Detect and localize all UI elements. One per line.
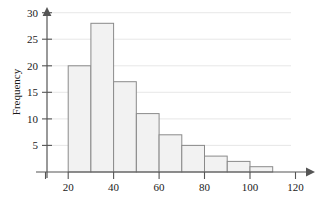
x-tick-label-80: 80 — [199, 181, 211, 193]
x-tick-label-100: 100 — [242, 181, 259, 193]
bar-100-110 — [250, 167, 273, 172]
y-tick-label-10: 10 — [27, 113, 39, 125]
x-tick-label-120: 120 — [287, 181, 304, 193]
bar-20-30 — [68, 66, 91, 172]
x-tick-label-20: 20 — [63, 181, 75, 193]
bar-60-70 — [159, 135, 182, 172]
bar-40-50 — [114, 82, 137, 172]
bars-group — [68, 23, 273, 172]
y-axis-arrow-icon — [43, 7, 52, 16]
y-tick-label-25: 25 — [27, 33, 39, 45]
y-tick-label-15: 15 — [27, 86, 39, 98]
bar-70-80 — [182, 145, 205, 172]
y-axis — [42, 7, 52, 178]
y-tick-label-30: 30 — [27, 7, 39, 19]
x-tick-label-40: 40 — [108, 181, 120, 193]
y-tick-labels: 5 10 15 20 25 30 — [27, 7, 39, 152]
chart-canvas: 5 10 15 20 25 30 20 40 60 80 100 120 Fre… — [0, 0, 323, 208]
bar-50-60 — [136, 114, 159, 172]
y-tick-label-20: 20 — [27, 60, 39, 72]
x-axis-arrow-icon — [306, 168, 315, 177]
bar-90-100 — [227, 161, 250, 172]
bar-30-40 — [91, 23, 114, 172]
histogram-chart: 5 10 15 20 25 30 20 40 60 80 100 120 Fre… — [0, 0, 323, 208]
y-tick-label-5: 5 — [33, 139, 39, 151]
x-tick-label-60: 60 — [154, 181, 166, 193]
y-axis-title: Frequency — [10, 68, 22, 115]
x-tick-labels: 20 40 60 80 100 120 — [63, 181, 305, 193]
bar-80-90 — [205, 156, 228, 172]
